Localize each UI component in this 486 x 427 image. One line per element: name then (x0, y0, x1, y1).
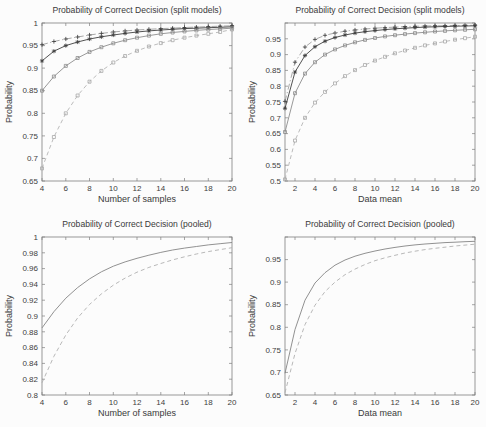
svg-text:18: 18 (204, 398, 213, 407)
svg-text:20: 20 (471, 398, 480, 407)
svg-text:0.7: 0.7 (27, 154, 39, 163)
svg-text:18: 18 (204, 184, 213, 193)
svg-text:0.75: 0.75 (265, 346, 281, 355)
svg-text:0.95: 0.95 (22, 41, 38, 50)
svg-text:6: 6 (333, 184, 338, 193)
svg-text:0.7: 0.7 (270, 114, 282, 123)
svg-text:12: 12 (391, 398, 400, 407)
chart-pooled-vs-data-mean: Probability of Correct Decision (pooled)… (243, 214, 486, 427)
x-axis-label: Data mean (285, 194, 475, 204)
chart-split-models-vs-samples: Probability of Correct Decision (split m… (0, 0, 243, 213)
svg-text:0.85: 0.85 (265, 300, 281, 309)
svg-text:1: 1 (34, 19, 39, 28)
svg-text:4: 4 (40, 184, 45, 193)
svg-text:16: 16 (431, 398, 440, 407)
svg-text:6: 6 (333, 398, 338, 407)
plot-area: 24681012141618200.650.70.750.80.850.90.9… (243, 214, 486, 427)
svg-text:0.5: 0.5 (270, 177, 282, 186)
svg-text:0.95: 0.95 (265, 35, 281, 44)
svg-text:0.9: 0.9 (27, 64, 39, 73)
svg-text:0.65: 0.65 (265, 391, 281, 400)
svg-text:16: 16 (180, 184, 189, 193)
svg-text:8: 8 (353, 398, 358, 407)
svg-text:0.8: 0.8 (270, 323, 282, 332)
svg-text:0.9: 0.9 (27, 312, 39, 321)
svg-text:0.75: 0.75 (265, 98, 281, 107)
svg-text:10: 10 (109, 184, 118, 193)
svg-text:12: 12 (133, 184, 142, 193)
svg-text:6: 6 (64, 398, 69, 407)
svg-text:12: 12 (133, 398, 142, 407)
plot-area: 24681012141618200.50.550.60.650.70.750.8… (243, 0, 486, 213)
svg-text:0.92: 0.92 (22, 296, 38, 305)
svg-text:14: 14 (156, 398, 165, 407)
svg-text:6: 6 (64, 184, 69, 193)
svg-text:0.86: 0.86 (22, 343, 38, 352)
svg-text:8: 8 (87, 398, 92, 407)
svg-text:0.9: 0.9 (270, 50, 282, 59)
x-axis-label: Number of samples (42, 194, 232, 204)
chart-split-models-vs-data-mean: Probability of Correct Decision (split m… (243, 0, 486, 213)
svg-text:0.7: 0.7 (270, 368, 282, 377)
svg-text:4: 4 (313, 398, 318, 407)
svg-text:0.88: 0.88 (22, 328, 38, 337)
svg-text:0.8: 0.8 (27, 391, 39, 400)
x-axis-label: Number of samples (42, 408, 232, 418)
svg-text:0.96: 0.96 (22, 264, 38, 273)
svg-text:8: 8 (353, 184, 358, 193)
svg-text:0.94: 0.94 (22, 280, 38, 289)
svg-text:20: 20 (228, 398, 237, 407)
figure-grid: Probability of Correct Decision (split m… (0, 0, 486, 427)
svg-text:20: 20 (471, 184, 480, 193)
plot-area: 4681012141618200.650.70.750.80.850.90.95… (0, 0, 243, 213)
svg-text:0.8: 0.8 (27, 109, 39, 118)
svg-text:10: 10 (371, 184, 380, 193)
svg-text:0.65: 0.65 (22, 177, 38, 186)
svg-text:20: 20 (228, 184, 237, 193)
svg-text:18: 18 (451, 398, 460, 407)
svg-text:0.84: 0.84 (22, 359, 38, 368)
svg-text:8: 8 (87, 184, 92, 193)
x-axis-label: Data mean (285, 408, 475, 418)
svg-text:16: 16 (431, 184, 440, 193)
svg-text:0.9: 0.9 (270, 278, 282, 287)
svg-text:0.8: 0.8 (270, 82, 282, 91)
svg-text:16: 16 (180, 398, 189, 407)
svg-text:14: 14 (411, 398, 420, 407)
svg-text:4: 4 (40, 398, 45, 407)
plot-area: 4681012141618200.80.820.840.860.880.90.9… (0, 214, 243, 427)
svg-text:10: 10 (371, 398, 380, 407)
svg-text:2: 2 (293, 184, 298, 193)
svg-text:1: 1 (34, 233, 39, 242)
svg-text:2: 2 (293, 398, 298, 407)
svg-text:0.98: 0.98 (22, 249, 38, 258)
svg-text:18: 18 (451, 184, 460, 193)
svg-text:14: 14 (156, 184, 165, 193)
svg-text:10: 10 (109, 398, 118, 407)
svg-text:14: 14 (411, 184, 420, 193)
svg-text:0.75: 0.75 (22, 132, 38, 141)
svg-text:0.95: 0.95 (265, 255, 281, 264)
svg-text:12: 12 (391, 184, 400, 193)
chart-pooled-vs-samples: Probability of Correct Decision (pooled)… (0, 214, 243, 427)
svg-text:0.82: 0.82 (22, 375, 38, 384)
svg-text:0.65: 0.65 (265, 129, 281, 138)
svg-text:0.6: 0.6 (270, 145, 282, 154)
svg-text:4: 4 (313, 184, 318, 193)
svg-text:0.85: 0.85 (265, 66, 281, 75)
svg-text:0.85: 0.85 (22, 86, 38, 95)
svg-text:0.55: 0.55 (265, 161, 281, 170)
